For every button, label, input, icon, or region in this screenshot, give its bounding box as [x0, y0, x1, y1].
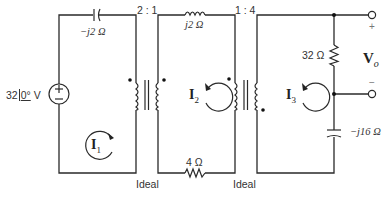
node-dot: [332, 92, 336, 96]
mesh-current-3-label: I3: [286, 88, 296, 105]
transformer-1-ratio: 2 : 1: [137, 5, 157, 16]
polarity-dot: [128, 78, 132, 82]
capacitor-1-symbol: [94, 9, 100, 21]
polarity-dot: [261, 108, 265, 112]
capacitor-2-symbol: [327, 130, 341, 137]
node-dot: [332, 13, 336, 17]
transformer-2-ratio: 1 : 4: [235, 5, 255, 16]
capacitor-1-label: −j2 Ω: [80, 27, 105, 38]
inductor-symbol: [185, 12, 205, 15]
source-label: 320° V: [6, 90, 41, 101]
transformer-1-symbol: [128, 78, 166, 110]
resistor-32-symbol: [330, 45, 338, 66]
right-loop-wires: [257, 15, 368, 173]
mesh-arrow-3: [302, 83, 330, 111]
transformer-1-ideal-label: Ideal: [136, 179, 159, 190]
output-terminal-minus: [368, 90, 375, 97]
polarity-dot: [162, 78, 166, 82]
mesh-arrow-2: [205, 83, 233, 111]
resistor-4-label: 4 Ω: [186, 157, 203, 168]
capacitor-2-label: −j16 Ω: [350, 127, 381, 138]
polarity-dot: [227, 77, 231, 81]
transformer-2-ideal-label: Ideal: [233, 179, 256, 190]
inductor-label: j2 Ω: [185, 20, 203, 31]
output-minus-sign: −: [369, 78, 375, 88]
output-plus-sign: +: [369, 22, 375, 32]
mesh-current-1-label: I1: [91, 138, 101, 155]
output-voltage-label: Vo: [363, 51, 379, 69]
resistor-4-symbol: [185, 169, 205, 177]
mesh-current-2-label: I2: [189, 88, 199, 105]
output-terminal-plus: [368, 11, 375, 18]
voltage-source-symbol: [49, 84, 69, 104]
resistor-32-label: 32 Ω: [302, 50, 324, 61]
